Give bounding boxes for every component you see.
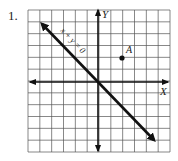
x-axis-label: X <box>159 85 168 97</box>
point-a <box>119 55 124 60</box>
coordinate-graph: X Y x + y = 0 A <box>0 0 178 161</box>
point-a-label: A <box>125 44 133 55</box>
line-equation-label: x + y = 0 <box>58 25 88 56</box>
